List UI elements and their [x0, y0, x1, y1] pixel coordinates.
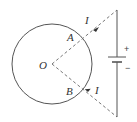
label-current-top: I [84, 14, 90, 26]
label-point-a: A [66, 31, 74, 43]
label-center-o: O [39, 59, 47, 71]
battery-positive-label: + [124, 44, 129, 54]
battery-negative-label: − [125, 63, 130, 73]
arrow-icon-current-out [85, 89, 91, 93]
label-point-b: B [66, 85, 73, 97]
circuit-diagram: + − O A B I I [0, 0, 137, 122]
battery-icon [108, 57, 126, 62]
wire-ob-dashed [52, 64, 117, 117]
label-current-bottom: I [94, 84, 100, 96]
